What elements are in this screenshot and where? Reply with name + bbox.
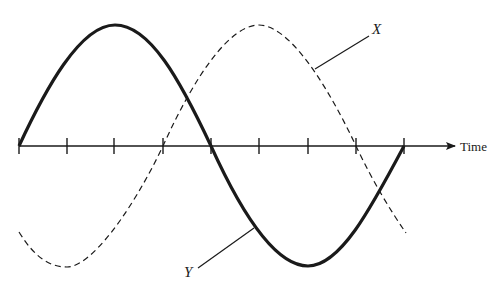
axis-label-time: Time xyxy=(460,139,487,154)
label-x: X xyxy=(371,21,382,37)
time-axis: Time xyxy=(19,138,487,154)
leader-line-x xyxy=(315,36,369,69)
label-y: Y xyxy=(184,264,194,280)
leader-line-y xyxy=(198,228,254,268)
phase-diagram: Time X Y xyxy=(0,0,498,293)
